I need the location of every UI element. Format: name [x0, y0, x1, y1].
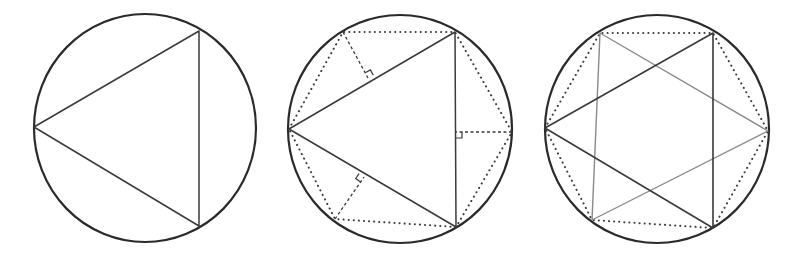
right-angle-mark: [456, 132, 462, 138]
perpendicular-dashed-line: [335, 177, 364, 219]
circumscribed-circle: [545, 15, 769, 243]
panel-hexagon-construction: [288, 15, 512, 243]
circumscribed-circle: [34, 14, 256, 242]
inscribed-triangle: [34, 31, 199, 226]
right-angle-mark: [365, 70, 373, 75]
inscribed-triangle: [289, 32, 456, 227]
right-angle-mark: [356, 174, 361, 182]
panel-inscribed-triangle: [34, 14, 256, 242]
hexagon-construction-diagram: [0, 0, 801, 257]
dotted-hexagon: [289, 32, 512, 227]
light-triangle: [592, 33, 768, 220]
dotted-hexagon: [545, 33, 768, 228]
circumscribed-circle: [288, 15, 512, 243]
perpendicular-dashed-line: [343, 32, 368, 78]
dark-triangle: [545, 33, 713, 228]
panel-hexagram: [545, 15, 769, 243]
